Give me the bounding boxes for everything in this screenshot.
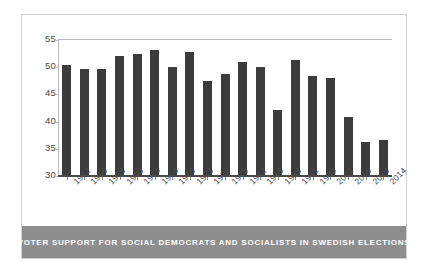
x-tick-label: 2014 <box>388 180 394 186</box>
y-axis-labels: 303540455055 <box>32 39 56 175</box>
bar <box>203 81 212 175</box>
bar <box>150 50 159 175</box>
y-tick-label: 45 <box>32 89 56 99</box>
x-axis-labels: 1952195619581960196419681970197319761979… <box>58 180 392 220</box>
x-tick-label: 2002 <box>335 180 341 186</box>
x-tick-label: 1998 <box>318 180 324 186</box>
y-tick-label: 35 <box>32 143 56 153</box>
bar <box>185 52 194 175</box>
x-tick-label: 1956 <box>89 180 95 186</box>
x-tick-label: 1988 <box>283 180 289 186</box>
bar <box>256 67 265 175</box>
x-tick-label: 1991 <box>300 180 306 186</box>
x-tick-label: 1958 <box>107 180 113 186</box>
x-tick-label: 1973 <box>195 180 201 186</box>
x-tick-label: 2010 <box>371 180 377 186</box>
y-tick-label: 40 <box>32 116 56 126</box>
bar <box>62 65 71 175</box>
x-tick-label: 1970 <box>177 180 183 186</box>
y-tick-label: 55 <box>32 34 56 44</box>
bar <box>80 69 89 175</box>
bars-layer <box>58 39 392 175</box>
x-tick-label: 1979 <box>230 180 236 186</box>
x-tick-label: 1960 <box>125 180 131 186</box>
x-tick-label: 1964 <box>142 180 148 186</box>
bar <box>221 74 230 175</box>
caption-label: VOTER SUPPORT FOR SOCIAL DEMOCRATS AND S… <box>18 238 411 247</box>
y-tick-label: 30 <box>32 170 56 180</box>
bar <box>308 76 317 175</box>
bar <box>238 62 247 175</box>
x-tick-label: 1968 <box>160 180 166 186</box>
bar <box>115 56 124 175</box>
bar <box>291 60 300 175</box>
chart-card: 303540455055 195219561958196019641968197… <box>21 14 407 259</box>
bar <box>133 54 142 175</box>
plot-region: 303540455055 195219561958196019641968197… <box>22 15 406 218</box>
y-tick-label: 50 <box>32 61 56 71</box>
bar <box>326 78 335 175</box>
x-tick-label: 1952 <box>72 180 78 186</box>
bar <box>97 69 106 175</box>
x-tick-label: 1976 <box>212 180 218 186</box>
bar <box>168 67 177 175</box>
x-tick-label: 1985 <box>265 180 271 186</box>
x-tick-label: 1982 <box>248 180 254 186</box>
caption-banner: VOTER SUPPORT FOR SOCIAL DEMOCRATS AND S… <box>22 226 406 258</box>
x-tick-label: 2006 <box>353 180 359 186</box>
